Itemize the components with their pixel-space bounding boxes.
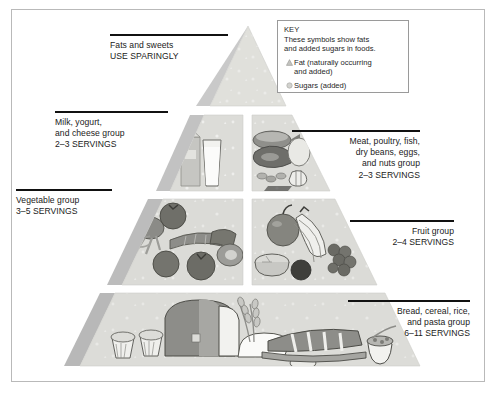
label-rule (292, 130, 420, 132)
key-title: KEY (284, 25, 403, 35)
key-legend-box: KEY These symbols show fats and added su… (277, 20, 409, 93)
label-milk-group: Milk, yogurt, and cheese group 2–3 SERVI… (55, 100, 185, 151)
key-item-fat: Fat (naturally occurring and added) (284, 58, 403, 77)
label-rule (16, 189, 112, 191)
label-rule (55, 111, 168, 113)
sugar-circle-icon (284, 81, 294, 89)
label-rule (348, 300, 470, 302)
label-rule (350, 220, 454, 222)
label-fats-and-sweets: Fats and sweets USE SPARINGLY (110, 23, 232, 62)
label-bread-group: Bread, cereal, rice, and pasta group 6–1… (348, 289, 470, 340)
label-fats-text: Fats and sweets USE SPARINGLY (110, 40, 179, 61)
label-fruit-group: Fruit group 2–4 SERVINGS (350, 209, 454, 248)
key-description: These symbols show fats and added sugars… (284, 35, 403, 54)
key-item-sugar-label: Sugars (added) (294, 81, 346, 91)
fat-triangle-icon (284, 58, 294, 66)
key-item-fat-label: Fat (naturally occurring and added) (294, 58, 372, 77)
label-fruit-text: Fruit group 2–4 SERVINGS (392, 226, 454, 247)
label-rule (110, 34, 228, 36)
label-meat-group: Meat, poultry, fish, dry beans, eggs, an… (292, 119, 420, 181)
label-vegetable-group: Vegetable group 3–5 SERVINGS (16, 178, 136, 217)
label-milk-text: Milk, yogurt, and cheese group 2–3 SERVI… (55, 117, 125, 150)
label-bread-text: Bread, cereal, rice, and pasta group 6–1… (397, 306, 470, 339)
key-item-sugar: Sugars (added) (284, 81, 403, 91)
food-pyramid-diagram: Fats and sweets USE SPARINGLY Milk, yogu… (0, 0, 497, 394)
label-meat-text: Meat, poultry, fish, dry beans, eggs, an… (349, 136, 420, 180)
label-vegetable-text: Vegetable group 3–5 SERVINGS (16, 195, 79, 216)
